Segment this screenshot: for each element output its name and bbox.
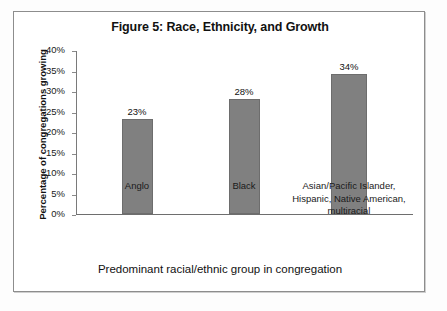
y-tick: 30% (72, 92, 76, 93)
bar: 23% (122, 119, 153, 213)
y-tick: 35% (72, 72, 76, 73)
bar-value-label: 23% (127, 106, 146, 117)
y-tick: 20% (72, 133, 76, 134)
y-tick-label: 10% (31, 167, 65, 178)
y-tick-label: 20% (31, 126, 65, 137)
x-category-label-line: Asian/Pacific Islander, (274, 180, 424, 193)
x-category-label-line: Hispanic, Native American, (274, 193, 424, 206)
chart-title: Figure 5: Race, Ethnicity, and Growth (14, 20, 426, 34)
x-category-label-line: Anglo (82, 180, 192, 193)
y-tick: 15% (72, 154, 76, 155)
y-tick: 5% (72, 195, 76, 196)
x-category-label: Asian/Pacific Islander,Hispanic, Native … (274, 180, 424, 218)
y-tick-label: 30% (31, 85, 65, 96)
bar-value-label: 28% (234, 86, 253, 97)
y-tick-label: 35% (31, 65, 65, 76)
y-tick-label: 0% (31, 208, 65, 219)
y-tick: 0% (72, 215, 76, 216)
y-tick: 40% (72, 51, 76, 52)
bar-value-label: 34% (339, 61, 358, 72)
figure-frame: Figure 5: Race, Ethnicity, and Growth Pe… (13, 11, 425, 292)
y-tick-label: 40% (31, 44, 65, 55)
y-axis-line (76, 51, 77, 215)
y-tick: 10% (72, 174, 76, 175)
x-category-label-line: multiracial (274, 205, 424, 218)
y-tick-label: 15% (31, 147, 65, 158)
y-tick-label: 5% (31, 188, 65, 199)
y-tick: 25% (72, 113, 76, 114)
x-axis-title: Predominant racial/ethnic group in congr… (14, 263, 426, 275)
x-category-label: Anglo (82, 180, 192, 193)
y-tick-label: 25% (31, 106, 65, 117)
bar: 28% (229, 99, 260, 214)
